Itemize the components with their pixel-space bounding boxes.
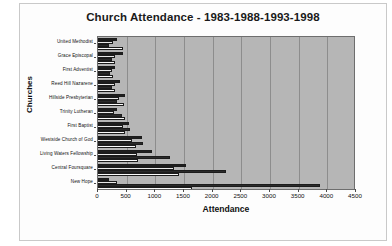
bar-group <box>98 37 354 51</box>
y-axis-tick-label: Central Foursquare <box>52 166 93 171</box>
x-axis-tick <box>183 189 184 192</box>
bar[interactable] <box>98 145 136 148</box>
y-axis-tick-label: Reed Hill Nazarene <box>51 82 93 87</box>
y-axis-tick-label: United Methodist <box>57 40 93 45</box>
bar-group <box>98 93 354 107</box>
x-axis-tick-label: 0 <box>95 192 98 199</box>
bars-layer <box>98 37 354 189</box>
bar-group <box>98 51 354 65</box>
bar-group <box>98 177 354 190</box>
x-axis-tick <box>269 189 270 192</box>
x-axis-tick <box>126 189 127 192</box>
y-axis-tick <box>94 155 96 156</box>
x-axis-tick <box>326 189 327 192</box>
x-axis-tick-label: 3500 <box>291 192 305 199</box>
bar[interactable] <box>98 103 124 106</box>
x-axis-tick-label: 4500 <box>348 192 362 199</box>
bar-group <box>98 107 354 121</box>
bar-group <box>98 79 354 93</box>
y-axis-tick-label: New Hope <box>71 180 93 185</box>
y-axis-tick <box>94 169 96 170</box>
y-axis-labels: United MethodistGrace EpiscopalFirst Adv… <box>20 36 96 190</box>
y-axis-tick <box>94 113 96 114</box>
plot-area <box>97 36 355 190</box>
y-axis-tick-label: First Baptist <box>67 124 93 129</box>
bar-group <box>98 163 354 177</box>
chart-title: Church Attendance - 1983-1988-1993-1998 <box>20 11 386 23</box>
y-axis-tick-label: Hillside Presbyterian <box>49 96 93 101</box>
x-axis-tick-label: 1500 <box>176 192 190 199</box>
x-axis-title: Attendance <box>97 204 355 214</box>
y-axis-tick-label: Grace Episcopal <box>58 54 93 59</box>
y-axis-tick <box>94 71 96 72</box>
x-axis-tick <box>355 189 356 192</box>
chart-frame: Church Attendance - 1983-1988-1993-1998 … <box>19 3 387 241</box>
bar-group <box>98 121 354 135</box>
x-axis-tick-label: 3000 <box>262 192 276 199</box>
bar-group <box>98 65 354 79</box>
x-axis-tick-label: 500 <box>120 192 130 199</box>
y-axis-tick <box>94 141 96 142</box>
bar[interactable] <box>98 117 125 120</box>
y-axis-tick-label: First Adventist <box>63 68 93 73</box>
x-axis-tick <box>240 189 241 192</box>
y-axis-tick <box>94 57 96 58</box>
x-axis-tick <box>154 189 155 192</box>
y-axis-tick-label: Trinity Lutheran <box>60 110 93 115</box>
x-axis-tick-label: 4000 <box>319 192 333 199</box>
bar[interactable] <box>98 187 192 190</box>
y-axis-tick <box>94 85 96 86</box>
y-axis-tick <box>94 99 96 100</box>
x-axis-tick-label: 2000 <box>205 192 219 199</box>
bar-group <box>98 135 354 149</box>
y-axis-tick <box>94 127 96 128</box>
x-axis-tick-label: 2500 <box>233 192 247 199</box>
y-axis-tick-label: Westside Church of God <box>41 138 93 143</box>
x-axis-tick-label: 1000 <box>147 192 161 199</box>
y-axis-tick <box>94 43 96 44</box>
y-axis-tick <box>94 183 96 184</box>
bar[interactable] <box>98 159 138 162</box>
bar[interactable] <box>98 61 115 64</box>
bar[interactable] <box>98 131 125 134</box>
bar-group <box>98 149 354 163</box>
bar[interactable] <box>98 75 113 78</box>
x-axis-tick <box>298 189 299 192</box>
bar[interactable] <box>98 89 115 92</box>
x-axis-tick <box>212 189 213 192</box>
x-axis-tick <box>97 189 98 192</box>
bar[interactable] <box>98 173 179 176</box>
y-axis-tick-label: Living Waters Fellowship <box>40 152 93 157</box>
bar[interactable] <box>98 47 123 50</box>
x-axis-labels: 050010001500200025003000350040004500 <box>97 192 355 204</box>
